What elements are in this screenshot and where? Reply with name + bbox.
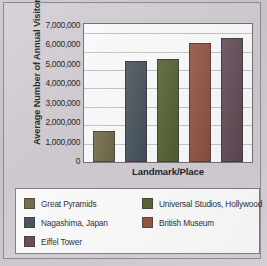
legend-swatch-icon (24, 198, 35, 209)
legend-item-label: Great Pyramids (41, 199, 97, 209)
legend-item-british-museum: British Museum (142, 217, 262, 228)
legend-swatch-icon (24, 236, 35, 247)
legend-swatch-icon (142, 198, 153, 209)
chart-page: Average Number of Annual Visitors 7,000,… (0, 0, 267, 266)
y-axis-tick-label: 6,000,000 (45, 39, 80, 49)
legend-item-great-pyramids: Great Pyramids (24, 198, 142, 209)
y-axis-tick-label: 5,000,000 (45, 59, 80, 69)
page-frame: Average Number of Annual Visitors 7,000,… (3, 2, 261, 259)
y-axis-tick-label: 1,000,000 (45, 137, 80, 147)
y-axis-tick-label: 7,000,000 (45, 20, 80, 30)
legend-item-label: British Museum (159, 218, 214, 228)
legend-swatch-icon (142, 217, 153, 228)
chart-legend: Great Pyramids Universal Studios, Hollyw… (15, 188, 260, 254)
bar-nagashima-japan (125, 61, 147, 162)
y-axis-tick-label: 2,000,000 (45, 117, 80, 127)
legend-item-label: Eiffel Tower (41, 237, 82, 247)
legend-swatch-icon (24, 217, 35, 228)
bar-british-museum (189, 43, 211, 162)
bar-chart: Average Number of Annual Visitors 7,000,… (12, 9, 261, 181)
y-axis-tick-label: 4,000,000 (45, 78, 80, 88)
bar-eiffel-tower (221, 38, 243, 162)
bar-universal-studios-hollywood (157, 59, 179, 162)
legend-item-label: Nagashima, Japan (41, 218, 108, 228)
legend-item-eiffel-tower: Eiffel Tower (24, 236, 142, 247)
x-axis-title: Landmark/Place (83, 166, 253, 177)
plot-area (83, 23, 253, 163)
bar-great-pyramids (93, 131, 115, 162)
y-axis-tick-labels: 7,000,000 6,000,000 5,000,000 4,000,000 … (26, 25, 80, 161)
y-axis-tick-label: 0 (76, 156, 80, 166)
legend-item-universal-studios-hollywood: Universal Studios, Hollywood (142, 198, 262, 209)
bar-series (84, 24, 252, 162)
legend-item-nagashima-japan: Nagashima, Japan (24, 217, 142, 228)
y-axis-tick-label: 3,000,000 (45, 98, 80, 108)
legend-item-label: Universal Studios, Hollywood (159, 199, 262, 209)
